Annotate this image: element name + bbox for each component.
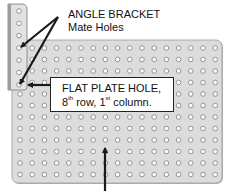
plate-hole — [152, 115, 157, 120]
plate-hole — [176, 92, 181, 97]
plate-hole — [115, 69, 120, 74]
plate-hole — [67, 46, 72, 51]
plate-hole — [140, 46, 145, 51]
callout-line2: 8th row, 1st column. — [62, 95, 173, 109]
plate-hole — [115, 161, 120, 166]
plate-hole — [54, 149, 59, 154]
plate-hole — [164, 138, 169, 143]
plate-hole — [189, 138, 194, 143]
plate-hole — [30, 103, 35, 108]
plate-hole — [18, 172, 23, 177]
plate-hole — [67, 172, 72, 177]
plate-hole — [54, 115, 59, 120]
plate-hole — [30, 46, 35, 51]
plate-hole — [103, 46, 108, 51]
plate-hole — [128, 172, 133, 177]
plate-hole — [189, 172, 194, 177]
plate-hole — [189, 57, 194, 62]
bracket-hole — [17, 9, 22, 14]
plate-hole — [30, 172, 35, 177]
plate-hole — [67, 161, 72, 166]
plate-hole — [115, 115, 120, 120]
plate-hole — [201, 126, 206, 131]
plate-hole — [152, 126, 157, 131]
plate-hole — [54, 172, 59, 177]
plate-hole — [176, 80, 181, 85]
plate-hole — [128, 161, 133, 166]
plate-hole — [140, 57, 145, 62]
plate-hole — [91, 172, 96, 177]
plate-hole — [176, 57, 181, 62]
plate-hole — [164, 161, 169, 166]
plate-hole — [42, 172, 47, 177]
plate-hole — [140, 149, 145, 154]
plate-hole — [42, 57, 47, 62]
plate-hole — [91, 149, 96, 154]
plate-hole — [140, 138, 145, 143]
plate-hole — [67, 57, 72, 62]
plate-hole — [189, 115, 194, 120]
plate-hole — [176, 172, 181, 177]
plate-hole — [79, 126, 84, 131]
bracket-hole — [17, 21, 22, 26]
plate-hole — [189, 103, 194, 108]
plate-hole — [42, 69, 47, 74]
plate-hole — [164, 115, 169, 120]
plate-hole — [18, 103, 23, 108]
plate-hole — [115, 138, 120, 143]
plate-hole — [201, 138, 206, 143]
plate-hole — [128, 115, 133, 120]
plate-hole — [54, 46, 59, 51]
plate-hole — [152, 172, 157, 177]
plate-hole — [30, 92, 35, 97]
plate-hole — [213, 92, 218, 97]
column-text: column. — [110, 96, 152, 108]
plate-hole — [79, 57, 84, 62]
plate-hole — [18, 138, 23, 143]
plate-hole — [189, 126, 194, 131]
plate-hole — [152, 138, 157, 143]
plate-hole — [213, 149, 218, 154]
plate-hole — [140, 126, 145, 131]
plate-hole — [213, 115, 218, 120]
flat-plate-hole-callout: FLAT PLATE HOLE, 8th row, 1st column. — [50, 77, 174, 112]
plate-hole — [213, 126, 218, 131]
plate-hole — [42, 126, 47, 131]
plate-hole — [30, 115, 35, 120]
plate-hole — [201, 172, 206, 177]
plate-hole — [91, 115, 96, 120]
plate-hole — [54, 138, 59, 143]
plate-hole — [91, 57, 96, 62]
plate-hole — [79, 115, 84, 120]
plate-hole — [115, 126, 120, 131]
plate-hole — [91, 46, 96, 51]
plate-hole — [79, 149, 84, 154]
plate-hole — [115, 46, 120, 51]
plate-hole — [140, 69, 145, 74]
plate-hole — [213, 57, 218, 62]
plate-hole — [54, 69, 59, 74]
plate-hole — [91, 138, 96, 143]
plate-hole — [91, 161, 96, 166]
plate-hole — [140, 115, 145, 120]
plate-hole — [67, 126, 72, 131]
plate-hole — [189, 149, 194, 154]
flat-plate — [12, 40, 223, 184]
plate-hole — [176, 138, 181, 143]
plate-hole — [152, 69, 157, 74]
plate-hole — [54, 57, 59, 62]
plate-hole — [201, 46, 206, 51]
plate-hole — [213, 161, 218, 166]
plate-hole — [152, 161, 157, 166]
plate-hole — [189, 161, 194, 166]
plate-hole — [176, 161, 181, 166]
plate-hole — [152, 57, 157, 62]
plate-hole — [128, 126, 133, 131]
plate-hole — [54, 161, 59, 166]
plate-hole — [42, 115, 47, 120]
plate-hole — [189, 69, 194, 74]
plate-hole — [103, 138, 108, 143]
plate-hole — [91, 69, 96, 74]
plate-hole — [152, 46, 157, 51]
plate-hole — [54, 126, 59, 131]
